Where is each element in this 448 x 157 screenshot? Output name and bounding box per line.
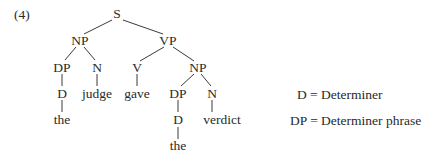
node-dp-object: DP xyxy=(169,87,186,101)
leaf-the-subject: the xyxy=(54,113,71,127)
node-d-subject: D xyxy=(57,87,67,101)
node-vp: VP xyxy=(159,34,176,48)
node-d-object: D xyxy=(173,113,183,127)
node-dp-subject: DP xyxy=(53,61,70,75)
node-np-object: NP xyxy=(189,61,206,75)
leaf-judge: judge xyxy=(82,87,112,101)
node-np-subject: NP xyxy=(71,34,88,48)
node-n-object: N xyxy=(207,87,217,101)
legend-determiner: D = Determiner xyxy=(297,87,383,103)
node-s: S xyxy=(113,7,121,21)
node-v: V xyxy=(132,61,142,75)
node-n-subject: N xyxy=(92,61,102,75)
legend-determiner-phrase: DP = Determiner phrase xyxy=(290,113,421,129)
tree-branches xyxy=(0,0,448,157)
leaf-gave: gave xyxy=(124,87,149,101)
leaf-verdict: verdict xyxy=(203,113,240,127)
example-number: (4) xyxy=(14,7,30,23)
leaf-the-object: the xyxy=(170,139,187,153)
